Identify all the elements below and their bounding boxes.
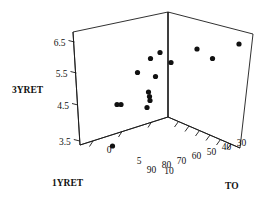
plot-frame	[73, 12, 253, 148]
data-point	[168, 60, 173, 65]
axis-title-layer: 3YRET1YRETTO	[12, 85, 239, 191]
z-tick-label: 3.5	[59, 137, 71, 147]
data-point	[153, 74, 158, 79]
x-tick-label: 5	[137, 156, 142, 166]
z-tick-label: 6.5	[54, 38, 66, 48]
data-point	[157, 50, 162, 55]
data-point	[146, 89, 151, 94]
y-tick-label: 30	[237, 138, 247, 148]
y-tick-label: 50	[207, 147, 217, 157]
y-tick-label: 40	[222, 142, 232, 152]
data-point	[118, 102, 123, 107]
z-axis-line	[73, 32, 80, 145]
y-tick-label: 80	[162, 160, 172, 170]
data-point	[236, 41, 241, 46]
z-tick-mark	[74, 140, 80, 142]
data-point	[194, 46, 199, 51]
z-tick-label: 5.5	[56, 69, 68, 79]
data-point-layer	[110, 41, 242, 148]
data-point	[148, 56, 153, 61]
x-axis-line	[80, 117, 168, 145]
y-tick-mark	[175, 122, 179, 128]
data-point	[135, 70, 140, 75]
y-tick-mark	[196, 131, 200, 137]
y-axis-title: TO	[225, 181, 239, 191]
z-tick-label: 4.5	[57, 101, 69, 111]
back-right-wall	[168, 12, 253, 148]
x-axis-title: 1YRET	[52, 178, 84, 188]
z-axis-title: 3YRET	[12, 85, 44, 95]
data-point	[210, 56, 215, 61]
data-point	[110, 143, 115, 148]
back-left-wall	[73, 12, 168, 145]
y-tick-mark	[217, 140, 221, 146]
scatter3d-figure: 6.55.54.53.5051090807060504030 3YRET1YRE…	[0, 0, 272, 219]
y-tick-label: 90	[147, 165, 157, 175]
data-point	[147, 98, 152, 103]
y-tick-label: 60	[192, 151, 202, 161]
y-tick-mark	[185, 126, 189, 132]
y-tick-mark	[206, 135, 210, 141]
data-point	[144, 105, 149, 110]
y-tick-label: 70	[177, 156, 187, 166]
plot-canvas: 6.55.54.53.5051090807060504030 3YRET1YRE…	[0, 0, 272, 219]
